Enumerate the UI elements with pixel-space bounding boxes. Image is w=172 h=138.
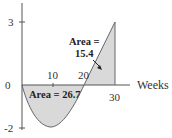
x-tick-label-30: 30 bbox=[109, 91, 121, 103]
annotation-negative: Area = 26.7 bbox=[29, 89, 81, 100]
y-tick-label-neg2: -2 bbox=[4, 122, 13, 134]
x-tick-label-10: 10 bbox=[47, 69, 59, 81]
area-chart: 3 0 -2 10 20 30 Weeks Area = 15.4 Area =… bbox=[0, 0, 172, 138]
x-axis-label: Weeks bbox=[137, 78, 169, 92]
annotation-positive-line1: Area = bbox=[69, 36, 100, 47]
annotation-positive-line2: 15.4 bbox=[75, 48, 94, 59]
y-tick-label-0: 0 bbox=[5, 79, 11, 91]
y-tick-label-3: 3 bbox=[8, 16, 14, 28]
x-tick-label-20: 20 bbox=[78, 69, 90, 81]
